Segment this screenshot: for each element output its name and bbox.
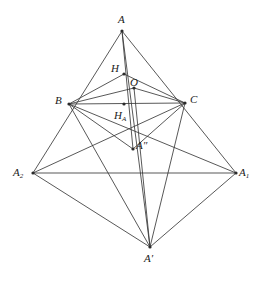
point-label-O: O	[130, 77, 138, 88]
point-label-HA: HA	[114, 110, 126, 121]
point-label-A2: A2	[13, 167, 23, 178]
vertex-dot-App	[131, 147, 134, 150]
edge-O-C	[134, 88, 185, 103]
edge-A1-Aprime	[150, 173, 236, 247]
edge-C-A2	[33, 103, 185, 173]
point-label-A1: A1	[239, 167, 249, 178]
point-label-B: B	[55, 95, 62, 106]
vertex-dot-C	[183, 101, 186, 104]
vertex-dot-HA	[122, 102, 125, 105]
edge-H-B	[69, 74, 124, 104]
edge-O-B	[69, 88, 134, 104]
vertex-dot-Ap	[148, 245, 151, 248]
edge-A2-Aprime	[33, 173, 150, 247]
vertex-dot-H	[122, 72, 125, 75]
edge-B-A1	[69, 104, 236, 173]
point-label-A: A	[118, 14, 125, 25]
edge-A-A1	[122, 31, 236, 173]
point-label-H: H	[111, 63, 119, 74]
vertex-dot-A1	[234, 171, 237, 174]
edges-group	[33, 31, 236, 247]
vertex-dot-B	[67, 102, 70, 105]
figure-canvas	[0, 0, 265, 282]
point-label-Ap: A′	[144, 253, 153, 264]
geometry-figure: AHOBCHAA″A2A1A′	[0, 0, 265, 282]
vertex-dots-group	[31, 29, 237, 248]
edge-B-C	[69, 103, 185, 104]
vertex-dot-A2	[31, 171, 34, 174]
point-label-C: C	[190, 94, 197, 105]
vertex-dot-A	[120, 29, 123, 32]
point-label-App: A″	[136, 140, 147, 151]
edge-C-Aprime	[150, 103, 185, 247]
